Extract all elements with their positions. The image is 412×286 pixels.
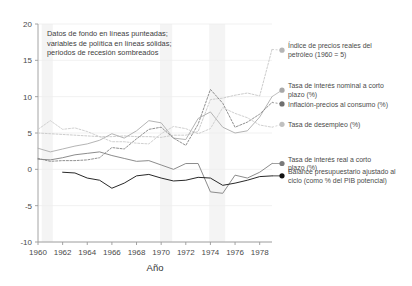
series-line-3 (38, 108, 272, 144)
series-line-1 (38, 97, 272, 152)
series-legend-marker-1 (279, 88, 284, 93)
legend-label-2-line-0: Inflación-precios al consumo (%) (288, 101, 388, 109)
chart-annotation-line-1: variables de política en líneas sólidas; (47, 39, 171, 48)
chart-figure: -10-505101520196019621964196619681970197… (0, 0, 412, 286)
chart-svg: -10-505101520196019621964196619681970197… (0, 0, 412, 286)
x-tick-label-1: 1962 (54, 248, 72, 257)
x-tick-label-2: 1964 (78, 248, 96, 257)
x-tick-label-3: 1966 (103, 248, 121, 257)
legend-label-1-line-0: Tasa de interés nominal a corto (288, 82, 384, 89)
y-tick-label-4: 10 (23, 93, 32, 102)
legend-label-5-line-1: ciclo (como % del PIB potencial) (288, 177, 387, 185)
legend-label-0-line-1: petróleo (1960 = 5) (288, 51, 346, 59)
x-tick-label-6: 1972 (177, 248, 195, 257)
series-legend-marker-5 (279, 173, 284, 178)
series-legend-marker-0 (279, 48, 284, 53)
legend-label-1-line-1: plazo (%) (288, 91, 317, 99)
y-tick-label-3: 5 (28, 129, 33, 138)
x-tick-label-5: 1970 (152, 248, 170, 257)
chart-annotation-line-2: periodos de recesión sombreados (47, 48, 159, 57)
x-axis-title: Año (147, 262, 164, 273)
y-tick-label-5: 15 (23, 56, 32, 65)
x-tick-label-0: 1960 (29, 248, 47, 257)
legend-label-4-line-0: Tasa de interés real a corto (288, 156, 371, 163)
x-tick-label-7: 1974 (202, 248, 220, 257)
x-tick-label-4: 1968 (128, 248, 146, 257)
legend-label-3-line-0: Tasa de desempleo (%) (288, 121, 360, 129)
legend-label-0-line-0: Índice de precios reales del (288, 41, 372, 50)
series-legend-marker-4 (279, 161, 284, 166)
y-tick-label-6: 20 (23, 20, 32, 29)
y-tick-label-2: 0 (28, 165, 33, 174)
legend-label-5-line-0: Balance presupuestario ajustado al (288, 168, 396, 176)
y-tick-label-1: -5 (25, 202, 33, 211)
y-tick-label-0: -10 (20, 238, 32, 247)
x-tick-label-8: 1976 (226, 248, 244, 257)
series-legend-marker-2 (279, 101, 284, 106)
x-tick-label-9: 1978 (251, 248, 269, 257)
series-line-0 (38, 49, 272, 137)
series-legend-marker-3 (279, 122, 284, 127)
chart-annotation-line-0: Datos de fondo en líneas punteadas; (47, 29, 168, 38)
series-line-2 (38, 89, 272, 161)
